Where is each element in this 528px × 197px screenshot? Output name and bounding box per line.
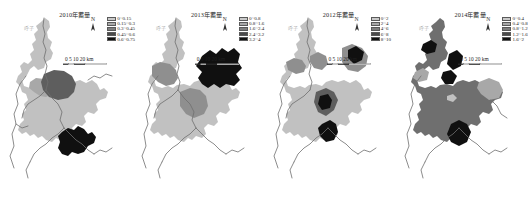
- north-arrow: N: [483, 17, 493, 31]
- scale-bar-labels: 0 5 10 20 km: [63, 56, 127, 62]
- legend-swatch-icon: [107, 32, 116, 36]
- urban-extent-class3-n: [310, 52, 328, 70]
- scale-bar: 0 5 10 20 km: [327, 56, 391, 65]
- legend-swatch-icon: [239, 32, 248, 36]
- scale-bar-graphic: [195, 63, 239, 66]
- map-panel-2010: 2010年蓄量 呼子 N 0~0.15 0.15~0.3 0.3~0.45: [0, 0, 132, 197]
- north-arrow-icon: [355, 23, 359, 31]
- legend-2012: 0~2 2~4 4~6 6~8 8~10: [371, 16, 391, 42]
- legend-swatch-icon: [107, 17, 116, 21]
- scale-bar: 0 5 10 20 km: [458, 56, 522, 65]
- scale-bar: 0 5 10 20 km: [63, 56, 127, 65]
- legend-swatch-icon: [107, 27, 116, 31]
- map-panel-2012: 2012年蓄量 呼子 N 0~2 2~4 4~6 6~8: [264, 0, 396, 197]
- scale-bar: 0 5 10 20 km: [195, 56, 259, 65]
- legend-swatch-icon: [107, 22, 116, 26]
- north-arrow: N: [352, 17, 362, 31]
- legend-swatch-icon: [371, 37, 380, 41]
- map-panel-2013: 2013年蓄量 呼子 N 0~0.8 0.8~1.6 1.6~2.4: [132, 0, 264, 197]
- legend-swatch-icon: [502, 37, 511, 41]
- legend-row: 3.2~4: [239, 37, 264, 42]
- legend-swatch-icon: [502, 32, 511, 36]
- scale-bar-graphic: [63, 63, 107, 66]
- legend-2014: 0~0.4 0.4~0.8 0.8~1.2 1.2~1.6 1.6~2: [502, 16, 527, 42]
- north-arrow: N: [88, 17, 98, 31]
- north-arrow-icon: [91, 23, 95, 31]
- scale-bar-graphic: [458, 63, 502, 66]
- north-letter: N: [88, 17, 98, 23]
- legend-swatch-icon: [239, 22, 248, 26]
- legend-swatch-icon: [502, 27, 511, 31]
- urban-extent-class5-core2: [441, 70, 457, 84]
- north-arrow-icon: [486, 23, 490, 31]
- scale-bar-labels: 0 5 10 20 km: [327, 56, 391, 62]
- north-letter: N: [220, 17, 230, 23]
- legend-swatch-icon: [502, 17, 511, 21]
- urban-extent-class5: [196, 48, 242, 88]
- scale-bar-graphic: [327, 63, 371, 66]
- legend-swatch-icon: [239, 17, 248, 21]
- legend-2010: 0~0.15 0.15~0.3 0.3~0.45 0.45~0.6 0.6~0.…: [107, 16, 135, 42]
- locality-label: 呼子: [24, 24, 34, 31]
- legend-row: 1.6~2: [502, 37, 527, 42]
- scale-bar-labels: 0 5 10 20 km: [458, 56, 522, 62]
- map-panel-2014: 2014年蓄量 呼子 N 0~0.4 0.4~0.8 0.8~1.2: [395, 0, 527, 197]
- locality-label: 呼子: [288, 24, 298, 31]
- north-arrow: N: [220, 17, 230, 31]
- legend-swatch-icon: [239, 37, 248, 41]
- legend-label: 8~10: [381, 37, 391, 42]
- north-letter: N: [352, 17, 362, 23]
- legend-swatch-icon: [371, 22, 380, 26]
- legend-swatch-icon: [371, 17, 380, 21]
- legend-swatch-icon: [371, 32, 380, 36]
- north-letter: N: [483, 17, 493, 23]
- legend-label: 3.2~4: [249, 37, 260, 42]
- locality-label: 呼子: [156, 24, 166, 31]
- legend-swatch-icon: [371, 27, 380, 31]
- legend-swatch-icon: [239, 27, 248, 31]
- scale-bar-labels: 0 5 10 20 km: [195, 56, 259, 62]
- legend-2013: 0~0.8 0.8~1.6 1.6~2.4 2.4~3.2 3.2~4: [239, 16, 264, 42]
- legend-swatch-icon: [107, 37, 116, 41]
- legend-row: 8~10: [371, 37, 391, 42]
- legend-label: 1.6~2: [512, 37, 523, 42]
- locality-label: 呼子: [419, 24, 429, 31]
- legend-swatch-icon: [502, 22, 511, 26]
- north-arrow-icon: [223, 23, 227, 31]
- legend-row: 0.6~0.75: [107, 37, 135, 42]
